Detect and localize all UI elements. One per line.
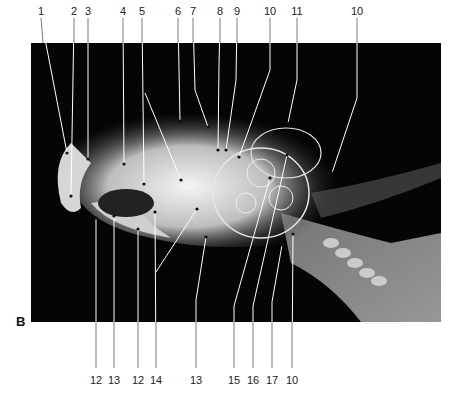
callout-label: 10 — [264, 5, 276, 17]
callout-label: 3 — [85, 5, 91, 17]
callout-label: 13 — [108, 374, 120, 386]
leader-lines — [0, 0, 451, 399]
callout-label: 12 — [90, 374, 102, 386]
callout-label: 9 — [234, 5, 240, 17]
callout-label: 13 — [190, 374, 202, 386]
callout-label: 10 — [351, 5, 363, 17]
callout-label: 12 — [132, 374, 144, 386]
panel-label: B — [16, 314, 25, 329]
callout-label: 5 — [139, 5, 145, 17]
radiograph-figure: B 1 2 3 4 5 6 7 8 9 10 11 10 12 13 12 14… — [0, 0, 451, 399]
callout-label: 8 — [217, 5, 223, 17]
callout-label: 11 — [291, 5, 302, 17]
callout-label: 17 — [266, 374, 278, 386]
callout-label: 4 — [120, 5, 126, 17]
callout-label: 16 — [247, 374, 259, 386]
callout-label: 14 — [150, 374, 162, 386]
callout-label: 1 — [38, 5, 44, 17]
callout-label: 15 — [228, 374, 240, 386]
callout-label: 6 — [175, 5, 181, 17]
callout-label: 2 — [71, 5, 77, 17]
callout-label: 7 — [190, 5, 196, 17]
callout-label: 10 — [286, 374, 298, 386]
